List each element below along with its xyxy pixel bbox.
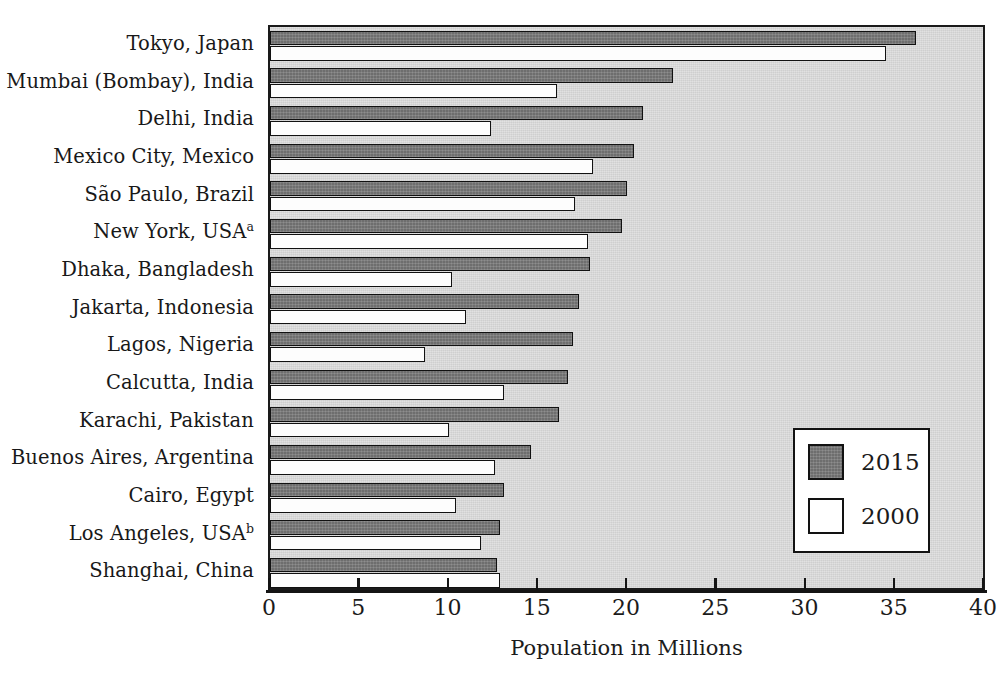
x-tick-1	[357, 578, 359, 591]
bar-2000-7	[270, 310, 466, 325]
category-footnote-5: a	[246, 219, 254, 234]
legend-swatch-2015	[808, 444, 844, 480]
x-tick-6	[804, 578, 806, 591]
x-tick-2	[447, 578, 449, 591]
category-footnote-13: b	[246, 520, 254, 535]
category-axis: Tokyo, JapanMumbai (Bombay), IndiaDelhi,…	[0, 25, 262, 590]
x-tick-label-5: 25	[701, 597, 729, 619]
category-label-14: Shanghai, China	[89, 561, 254, 581]
bar-2000-9	[270, 385, 504, 400]
bar-2000-11	[270, 460, 495, 475]
bar-2000-12	[270, 498, 456, 513]
bar-2015-11	[270, 445, 531, 460]
category-label-7: Jakarta, Indonesia	[72, 298, 254, 318]
bar-2015-4	[270, 181, 627, 196]
bar-2000-13	[270, 536, 481, 551]
x-tick-7	[893, 578, 895, 591]
bar-2015-10	[270, 407, 559, 422]
bar-2000-5	[270, 234, 588, 249]
bar-2000-1	[270, 84, 557, 99]
bar-2000-3	[270, 159, 593, 174]
bar-2015-13	[270, 520, 500, 535]
bar-2015-5	[270, 219, 622, 234]
x-tick-5	[714, 578, 716, 591]
bar-2000-10	[270, 423, 449, 438]
category-label-9: Calcutta, India	[106, 373, 254, 393]
category-label-11: Buenos Aires, Argentina	[11, 448, 254, 468]
legend-label-2015: 2015	[861, 451, 920, 474]
bar-2015-0	[270, 31, 916, 46]
x-tick-label-3: 15	[523, 597, 551, 619]
chart-legend: 2015 2000	[793, 428, 930, 553]
x-tick-3	[536, 578, 538, 591]
x-tick-label-7: 35	[880, 597, 908, 619]
category-label-1: Mumbai (Bombay), India	[6, 72, 254, 92]
bar-2015-14	[270, 558, 497, 573]
legend-entry-2015: 2015	[808, 444, 920, 480]
x-tick-label-0: 0	[262, 597, 276, 619]
category-label-12: Cairo, Egypt	[129, 486, 255, 506]
legend-swatch-2000	[808, 498, 844, 534]
bar-2015-8	[270, 332, 573, 347]
bar-2015-12	[270, 483, 504, 498]
category-label-3: Mexico City, Mexico	[53, 147, 254, 167]
bar-2015-7	[270, 294, 579, 309]
bar-2015-1	[270, 68, 673, 83]
category-label-10: Karachi, Pakistan	[79, 411, 254, 431]
bar-2015-3	[270, 144, 634, 159]
bar-2000-0	[270, 46, 886, 61]
x-tick-label-8: 40	[969, 597, 997, 619]
legend-label-2000: 2000	[861, 505, 920, 528]
bar-2000-8	[270, 347, 425, 362]
x-tick-label-4: 20	[612, 597, 640, 619]
category-label-5: New York, USAa	[93, 222, 254, 242]
x-axis-title: Population in Millions	[268, 638, 985, 659]
category-label-2: Delhi, India	[138, 109, 254, 129]
category-label-13: Los Angeles, USAb	[69, 524, 254, 544]
x-tick-label-1: 5	[351, 597, 365, 619]
bar-2000-2	[270, 121, 491, 136]
legend-entry-2000: 2000	[808, 498, 920, 534]
bar-2015-6	[270, 257, 590, 272]
bar-2000-6	[270, 272, 452, 287]
category-label-4: São Paulo, Brazil	[85, 185, 254, 205]
x-tick-0	[268, 578, 270, 591]
bar-2015-9	[270, 370, 568, 385]
population-bar-chart: Tokyo, JapanMumbai (Bombay), IndiaDelhi,…	[0, 0, 1002, 679]
x-tick-label-6: 30	[791, 597, 819, 619]
category-label-6: Dhaka, Bangladesh	[61, 260, 254, 280]
bar-2000-4	[270, 197, 575, 212]
x-tick-label-2: 10	[434, 597, 462, 619]
bar-2000-14	[270, 573, 500, 588]
category-label-8: Lagos, Nigeria	[107, 335, 254, 355]
x-tick-4	[625, 578, 627, 591]
bar-2015-2	[270, 106, 643, 121]
x-tick-8	[982, 578, 984, 591]
category-label-0: Tokyo, Japan	[126, 34, 254, 54]
